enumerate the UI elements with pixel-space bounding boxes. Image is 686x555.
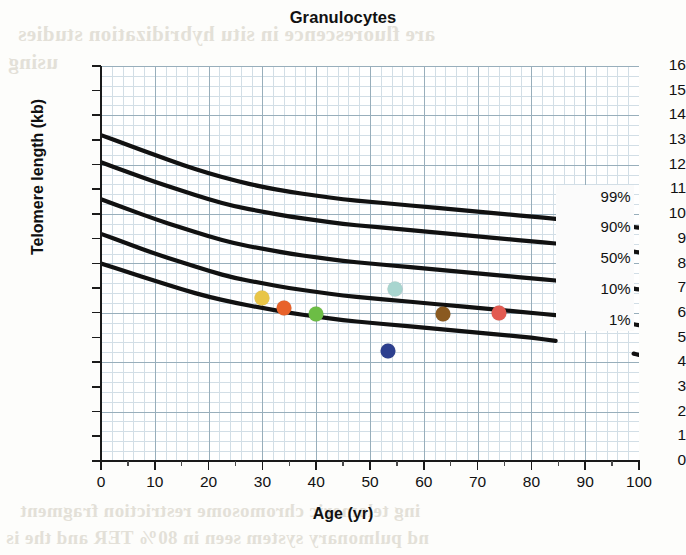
y-tick-16 bbox=[92, 65, 101, 67]
curve-90pct-seg1 bbox=[634, 252, 639, 253]
curve-99pct-seg0 bbox=[101, 135, 556, 219]
y-tick-6 bbox=[92, 312, 101, 314]
point-navy[interactable] bbox=[380, 344, 395, 359]
x-tick-minor-5 bbox=[127, 461, 128, 466]
y-tick-9 bbox=[92, 238, 101, 240]
y-tick-label-6: 6 bbox=[602, 303, 686, 321]
x-tick-label-50: 50 bbox=[340, 473, 400, 491]
y-tick-label-2: 2 bbox=[602, 402, 686, 420]
x-tick-100 bbox=[638, 461, 640, 470]
x-tick-20 bbox=[208, 461, 210, 470]
x-tick-label-70: 70 bbox=[448, 473, 508, 491]
y-tick-label-16: 16 bbox=[602, 56, 686, 74]
x-tick-label-0: 0 bbox=[71, 473, 131, 491]
y-tick-5 bbox=[92, 337, 101, 339]
point-orange[interactable] bbox=[276, 300, 291, 315]
y-tick-label-15: 15 bbox=[602, 81, 686, 99]
x-tick-minor-55 bbox=[396, 461, 397, 466]
x-tick-60 bbox=[423, 461, 425, 470]
y-tick-13 bbox=[92, 139, 101, 141]
y-tick-label-4: 4 bbox=[602, 352, 686, 370]
y-tick-1 bbox=[92, 435, 101, 437]
x-tick-label-60: 60 bbox=[394, 473, 454, 491]
y-tick-10 bbox=[92, 213, 101, 215]
chart-title: Granulocytes bbox=[0, 8, 686, 27]
x-tick-40 bbox=[315, 461, 317, 470]
y-tick-2 bbox=[92, 411, 101, 413]
y-tick-label-5: 5 bbox=[602, 328, 686, 346]
x-tick-30 bbox=[262, 461, 264, 470]
x-tick-minor-95 bbox=[611, 461, 612, 466]
y-tick-label-13: 13 bbox=[602, 130, 686, 148]
x-tick-minor-85 bbox=[558, 461, 559, 466]
y-tick-label-3: 3 bbox=[602, 377, 686, 395]
y-tick-label-9: 9 bbox=[602, 229, 686, 247]
y-tick-3 bbox=[92, 386, 101, 388]
curve-90pct-seg0 bbox=[101, 162, 556, 243]
y-tick-label-10: 10 bbox=[602, 204, 686, 222]
y-tick-label-7: 7 bbox=[602, 278, 686, 296]
x-tick-label-20: 20 bbox=[179, 473, 239, 491]
x-tick-50 bbox=[369, 461, 371, 470]
x-tick-label-80: 80 bbox=[501, 473, 561, 491]
curve-99pct-seg1 bbox=[634, 227, 639, 228]
y-tick-7 bbox=[92, 287, 101, 289]
y-tick-label-12: 12 bbox=[602, 155, 686, 173]
point-yellow[interactable] bbox=[255, 291, 270, 306]
y-tick-label-0: 0 bbox=[602, 451, 686, 469]
y-tick-15 bbox=[92, 90, 101, 92]
y-tick-label-8: 8 bbox=[602, 254, 686, 272]
x-tick-90 bbox=[584, 461, 586, 470]
x-tick-minor-35 bbox=[289, 461, 290, 466]
y-axis-title: Telomere length (kb) bbox=[29, 57, 47, 297]
x-tick-label-100: 100 bbox=[609, 473, 669, 491]
y-tick-4 bbox=[92, 361, 101, 363]
page-bleed-text-bottom-2: nd pulmonary system seen in 80% TER and … bbox=[6, 527, 429, 549]
y-tick-label-11: 11 bbox=[602, 179, 686, 197]
x-tick-label-40: 40 bbox=[286, 473, 346, 491]
x-tick-minor-75 bbox=[504, 461, 505, 466]
y-tick-11 bbox=[92, 188, 101, 190]
point-green[interactable] bbox=[309, 307, 324, 322]
x-tick-label-90: 90 bbox=[555, 473, 615, 491]
x-tick-minor-15 bbox=[181, 461, 182, 466]
point-brown[interactable] bbox=[436, 307, 451, 322]
x-tick-label-30: 30 bbox=[232, 473, 292, 491]
point-teal[interactable] bbox=[387, 282, 402, 297]
x-axis-title: Age (yr) bbox=[0, 505, 686, 523]
x-tick-minor-65 bbox=[450, 461, 451, 466]
x-tick-minor-45 bbox=[342, 461, 343, 466]
y-tick-label-1: 1 bbox=[602, 426, 686, 444]
y-tick-14 bbox=[92, 114, 101, 116]
x-tick-label-10: 10 bbox=[125, 473, 185, 491]
y-tick-8 bbox=[92, 263, 101, 265]
x-tick-minor-25 bbox=[235, 461, 236, 466]
plot-area: 99%90%50%10%1% bbox=[101, 66, 639, 461]
x-tick-80 bbox=[531, 461, 533, 470]
point-red[interactable] bbox=[492, 305, 507, 320]
x-tick-10 bbox=[154, 461, 156, 470]
x-tick-70 bbox=[477, 461, 479, 470]
x-tick-0 bbox=[100, 461, 102, 470]
y-tick-12 bbox=[92, 164, 101, 166]
y-tick-label-14: 14 bbox=[602, 105, 686, 123]
curve-10pct-seg1 bbox=[634, 324, 639, 325]
